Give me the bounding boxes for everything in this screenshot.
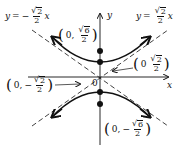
numerator: 6 xyxy=(137,120,143,129)
y-axis-label: y xyxy=(107,10,112,20)
denominator: 2 xyxy=(36,85,43,94)
denominator: 2 xyxy=(134,129,141,138)
numerator: 2 xyxy=(156,55,162,64)
point-y: √6 2 xyxy=(77,26,90,44)
point-x: 0, xyxy=(14,81,23,90)
asymptote-eq: = xyxy=(12,12,20,21)
point-y: √2 2 xyxy=(33,76,46,94)
open-paren: ( xyxy=(58,28,64,43)
point-sign: − xyxy=(122,125,130,134)
vertex-top-label: ( 0 √2 2 ) xyxy=(133,55,170,73)
vertex-bottom-leader xyxy=(55,84,80,85)
denominator: 2 xyxy=(81,35,88,44)
asymptote-lhs: y xyxy=(5,12,10,21)
asymptote-coefficient: √2 2 xyxy=(30,7,43,25)
numerator: 2 xyxy=(39,76,45,85)
point-y: √6 2 xyxy=(131,120,144,138)
vertex-bottom-dot xyxy=(97,89,103,95)
asymptote-eq: = xyxy=(143,12,151,21)
focus-top-label: ( 0, √6 2 ) xyxy=(58,26,98,44)
focus-bottom-label: ( 0, − √6 2 ) xyxy=(104,120,151,138)
point-y: √2 2 xyxy=(150,55,163,73)
asymptote-sign: − xyxy=(22,12,30,21)
point-sign: − xyxy=(24,81,32,90)
vertex-top-dot xyxy=(97,59,103,65)
close-paren: ) xyxy=(92,28,98,43)
denominator: 2 xyxy=(33,16,40,25)
close-paren: ) xyxy=(164,57,170,72)
close-paren: ) xyxy=(47,78,53,93)
point-x: 0 xyxy=(141,60,147,69)
point-x: 0, xyxy=(112,125,121,134)
upper-branch-arrow-right-icon xyxy=(140,37,150,45)
denominator: 2 xyxy=(153,64,160,73)
asymptote-coefficient: √2 2 xyxy=(154,7,167,25)
open-paren: ( xyxy=(6,78,12,93)
point-x: 0, xyxy=(66,31,75,40)
x-axis-label: x xyxy=(167,80,172,90)
focus-top-dot xyxy=(97,48,103,54)
numerator: 6 xyxy=(84,26,90,35)
numerator: 2 xyxy=(160,7,166,16)
asymptote-lhs: y xyxy=(136,12,141,21)
focus-bottom-dot xyxy=(97,101,103,107)
lower-branch-arrow-left-icon xyxy=(52,109,62,117)
close-paren: ) xyxy=(145,122,151,137)
numerator: 2 xyxy=(36,7,42,16)
asymptote-var: x xyxy=(168,12,173,21)
asymptote-negative-label: y = − √2 2 x xyxy=(5,7,49,25)
origin-label: 0 xyxy=(92,78,98,88)
vertex-top-leader xyxy=(113,68,133,71)
asymptote-var: x xyxy=(44,12,49,21)
asymptote-positive-label: y = √2 2 x xyxy=(136,7,173,25)
vertex-bottom-label: ( 0, − √2 2 ) xyxy=(6,76,53,94)
open-paren: ( xyxy=(104,122,110,137)
open-paren: ( xyxy=(133,57,139,72)
denominator: 2 xyxy=(157,16,164,25)
